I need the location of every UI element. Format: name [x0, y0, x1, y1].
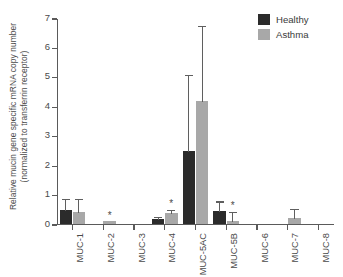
y-axis-tick-label: 3	[45, 130, 50, 140]
plot-area: 01234567MUC-1MUC-2*MUC-3MUC-4*MUC-5ACMUC…	[57, 19, 334, 225]
y-axis-tick	[52, 77, 57, 78]
y-axis-tick-label: 0	[45, 219, 50, 229]
bar-muc-1-healthy	[60, 210, 73, 224]
bar-muc-5ac-asthma	[196, 101, 209, 224]
y-axis-tick	[52, 224, 57, 225]
legend-swatch-asthma	[258, 29, 270, 40]
legend-item-asthma: Asthma	[258, 29, 309, 40]
x-axis-tick	[103, 225, 104, 230]
y-axis-line	[57, 19, 58, 225]
bar-muc-1-asthma	[73, 212, 86, 224]
y-axis-title-line-2: (normalized to transferrin receptor)	[19, 50, 30, 182]
y-axis-tick-label: 7	[45, 13, 50, 23]
x-axis-tick	[256, 225, 257, 230]
x-axis-tick	[318, 225, 319, 230]
error-bar-stem	[232, 212, 233, 222]
error-bar-cap	[290, 209, 298, 210]
error-bar-stem	[65, 199, 66, 211]
x-axis-tick	[164, 225, 165, 230]
significance-marker: *	[231, 201, 235, 211]
error-bar-cap	[167, 210, 175, 211]
y-axis-tick	[52, 18, 57, 19]
x-axis-tick-label: MUC-5B	[230, 233, 239, 269]
x-axis-tick	[287, 225, 288, 230]
x-axis-tick	[226, 225, 227, 230]
bar-chart-figure: Relative mucin gene specific mRNA copy n…	[0, 0, 343, 277]
legend-swatch-healthy	[258, 14, 270, 25]
error-bar-stem	[188, 75, 189, 152]
x-axis-tick-label: MUC-1	[76, 233, 85, 262]
bar-muc-5b-healthy	[213, 211, 226, 224]
y-axis-tick-label: 6	[45, 42, 50, 52]
error-bar-cap	[216, 201, 224, 202]
legend-label-asthma: Asthma	[276, 30, 309, 40]
x-axis-tick-label: MUC-8	[322, 233, 331, 262]
y-axis-tick	[52, 48, 57, 49]
significance-marker: *	[108, 211, 112, 221]
x-axis-tick-label: MUC-2	[107, 233, 116, 262]
bar-muc-5ac-healthy	[183, 151, 196, 224]
x-axis-tick	[133, 225, 134, 230]
x-axis-tick-label: MUC-6	[261, 233, 270, 262]
y-axis-tick-label: 1	[45, 189, 50, 199]
significance-marker: *	[169, 199, 173, 209]
x-axis-tick-label: MUC-3	[138, 233, 147, 262]
chart-legend: Healthy Asthma	[258, 14, 309, 40]
x-axis-tick	[72, 225, 73, 230]
y-axis-tick-label: 5	[45, 71, 50, 81]
y-axis-tick	[52, 136, 57, 137]
error-bar-stem	[219, 201, 220, 212]
error-bar-stem	[78, 199, 79, 213]
y-axis-tick	[52, 107, 57, 108]
x-axis-tick-label: MUC-7	[291, 233, 300, 262]
x-axis-tick	[195, 225, 196, 230]
error-bar-cap	[62, 199, 70, 200]
y-axis-title-line-1: Relative mucin gene specific mRNA copy n…	[9, 22, 20, 209]
legend-label-healthy: Healthy	[276, 15, 309, 25]
x-axis-tick-label: MUC-4	[168, 233, 177, 262]
y-axis-tick-label: 4	[45, 101, 50, 111]
y-axis-tick	[52, 195, 57, 196]
x-axis-tick-label: MUC-5AC	[199, 233, 208, 275]
error-bar-cap	[198, 26, 206, 27]
error-bar-cap	[229, 212, 237, 213]
error-bar-cap	[75, 199, 83, 200]
error-bar-stem	[202, 26, 203, 102]
error-bar-cap	[185, 75, 193, 76]
bar-muc-2-asthma	[103, 221, 116, 224]
error-bar-cap	[154, 217, 162, 218]
bar-muc-4-asthma	[165, 213, 178, 224]
error-bar-stem	[294, 209, 295, 219]
y-axis-tick-label: 2	[45, 160, 50, 170]
legend-item-healthy: Healthy	[258, 14, 309, 25]
y-axis-tick	[52, 166, 57, 167]
y-axis-title: Relative mucin gene specific mRNA copy n…	[2, 0, 36, 232]
